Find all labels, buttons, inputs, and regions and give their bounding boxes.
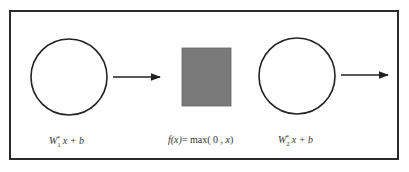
linear-node-1 bbox=[31, 39, 107, 115]
linear-expression-rest: x + b bbox=[289, 134, 313, 145]
max-expression: = max( 0 , bbox=[182, 134, 226, 145]
relu-label: f(x)= max( 0 , x) bbox=[168, 134, 233, 145]
linear-node-2-label: W2* x + b bbox=[278, 133, 313, 148]
relu-activation-box bbox=[182, 48, 231, 106]
closing-paren: ) bbox=[230, 134, 233, 145]
linear-node-1-label: W1* x + b bbox=[49, 134, 84, 149]
linear-expression-rest: x + b bbox=[60, 135, 84, 146]
linear-node-2 bbox=[259, 38, 335, 114]
function-argument: (x) bbox=[171, 134, 182, 145]
